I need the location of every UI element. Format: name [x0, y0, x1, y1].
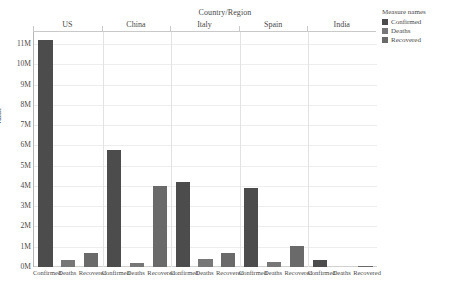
- gridline: [34, 145, 377, 146]
- y-axis-tick-label: 9M: [3, 80, 31, 89]
- gridline: [34, 85, 377, 86]
- y-axis-tick-label: 10M: [3, 59, 31, 68]
- x-axis-label-india-deaths: Deaths: [330, 268, 353, 278]
- bar-india-recovered[interactable]: [358, 266, 372, 268]
- bar-india-confirmed[interactable]: [313, 260, 327, 267]
- bar-italy-recovered[interactable]: [221, 253, 235, 267]
- y-axis-tick-label: 0M: [3, 262, 31, 271]
- x-axis-label-us-confirmed: Confirmed: [33, 268, 56, 278]
- gridline: [34, 44, 377, 45]
- y-axis-tick-label: 7M: [3, 120, 31, 129]
- y-axis-title: Value: [0, 107, 3, 125]
- x-axis-label-us-deaths: Deaths: [56, 268, 79, 278]
- gridline: [34, 166, 377, 167]
- legend-swatch-icon: [382, 28, 388, 34]
- x-axis-label-china-deaths: Deaths: [124, 268, 147, 278]
- chart-root: Country/Region USChinaItalySpainIndia 0M…: [0, 0, 449, 307]
- header-tick: [307, 26, 308, 32]
- gridline: [34, 105, 377, 106]
- bar-china-confirmed[interactable]: [107, 150, 121, 268]
- x-axis-labels: ConfirmedDeathsRecoveredConfirmedDeathsR…: [33, 268, 376, 282]
- bar-italy-confirmed[interactable]: [176, 182, 190, 267]
- panel-header-spain: Spain: [239, 18, 308, 31]
- bar-spain-deaths[interactable]: [267, 262, 281, 267]
- gridline: [34, 64, 377, 65]
- column-field-label: Country/Region: [170, 8, 280, 17]
- y-axis-tick-label: 4M: [3, 181, 31, 190]
- panel-header-italy: Italy: [170, 18, 239, 31]
- panel-separator: [103, 32, 104, 267]
- panel-separator: [240, 32, 241, 267]
- y-axis-tick-label: 3M: [3, 201, 31, 210]
- y-axis-tick-label: 1M: [3, 242, 31, 251]
- gridline: [34, 186, 377, 187]
- gridline: [34, 206, 377, 207]
- gridline: [34, 247, 377, 248]
- gridline: [34, 125, 377, 126]
- legend-title: Measure names: [382, 8, 449, 16]
- header-tick: [33, 26, 34, 32]
- x-axis-label-india-confirmed: Confirmed: [307, 268, 330, 278]
- x-axis-label-italy-recovered: Recovered: [216, 268, 239, 278]
- y-axis: 0M1M2M3M4M5M6M7M8M9M10M11M: [0, 32, 31, 267]
- panel-separator: [308, 32, 309, 267]
- x-axis-label-spain-confirmed: Confirmed: [239, 268, 262, 278]
- panel-separator: [171, 32, 172, 267]
- x-axis-label-italy-deaths: Deaths: [193, 268, 216, 278]
- bar-spain-recovered[interactable]: [290, 246, 304, 267]
- panel-header-us: US: [33, 18, 102, 31]
- panel-header-china: China: [102, 18, 171, 31]
- legend-item-confirmed[interactable]: Confirmed: [382, 18, 449, 26]
- bar-china-recovered[interactable]: [153, 186, 167, 267]
- header-tick: [170, 26, 171, 32]
- legend-item-recovered[interactable]: Recovered: [382, 36, 449, 44]
- legend-swatch-icon: [382, 19, 388, 25]
- bar-us-recovered[interactable]: [84, 253, 98, 267]
- panel-header-band: USChinaItalySpainIndia: [33, 18, 376, 31]
- legend-label: Confirmed: [391, 18, 421, 26]
- x-axis-label-italy-confirmed: Confirmed: [170, 268, 193, 278]
- legend-label: Recovered: [391, 36, 421, 44]
- legend-label: Deaths: [391, 27, 410, 35]
- header-tick: [239, 26, 240, 32]
- bar-china-deaths[interactable]: [130, 263, 144, 267]
- y-axis-tick-label: 5M: [3, 161, 31, 170]
- bar-us-confirmed[interactable]: [38, 40, 52, 267]
- x-axis-label-china-confirmed: Confirmed: [102, 268, 125, 278]
- bar-us-deaths[interactable]: [61, 260, 75, 267]
- bar-spain-confirmed[interactable]: [244, 188, 258, 267]
- y-axis-tick-label: 8M: [3, 100, 31, 109]
- bar-italy-deaths[interactable]: [198, 259, 212, 267]
- panel-header-india: India: [307, 18, 376, 31]
- x-axis-label-china-recovered: Recovered: [147, 268, 170, 278]
- y-axis-tick-label: 6M: [3, 140, 31, 149]
- header-tick: [102, 26, 103, 32]
- legend: Measure names ConfirmedDeathsRecovered: [382, 8, 449, 45]
- x-axis-label-spain-recovered: Recovered: [285, 268, 308, 278]
- legend-swatch-icon: [382, 37, 388, 43]
- plot-area: [33, 32, 377, 267]
- y-axis-tick-label: 11M: [3, 39, 31, 48]
- x-axis-label-india-recovered: Recovered: [353, 268, 376, 278]
- gridline: [34, 226, 377, 227]
- x-axis-label-spain-deaths: Deaths: [262, 268, 285, 278]
- y-axis-tick-label: 2M: [3, 221, 31, 230]
- legend-item-deaths[interactable]: Deaths: [382, 27, 449, 35]
- x-axis-label-us-recovered: Recovered: [79, 268, 102, 278]
